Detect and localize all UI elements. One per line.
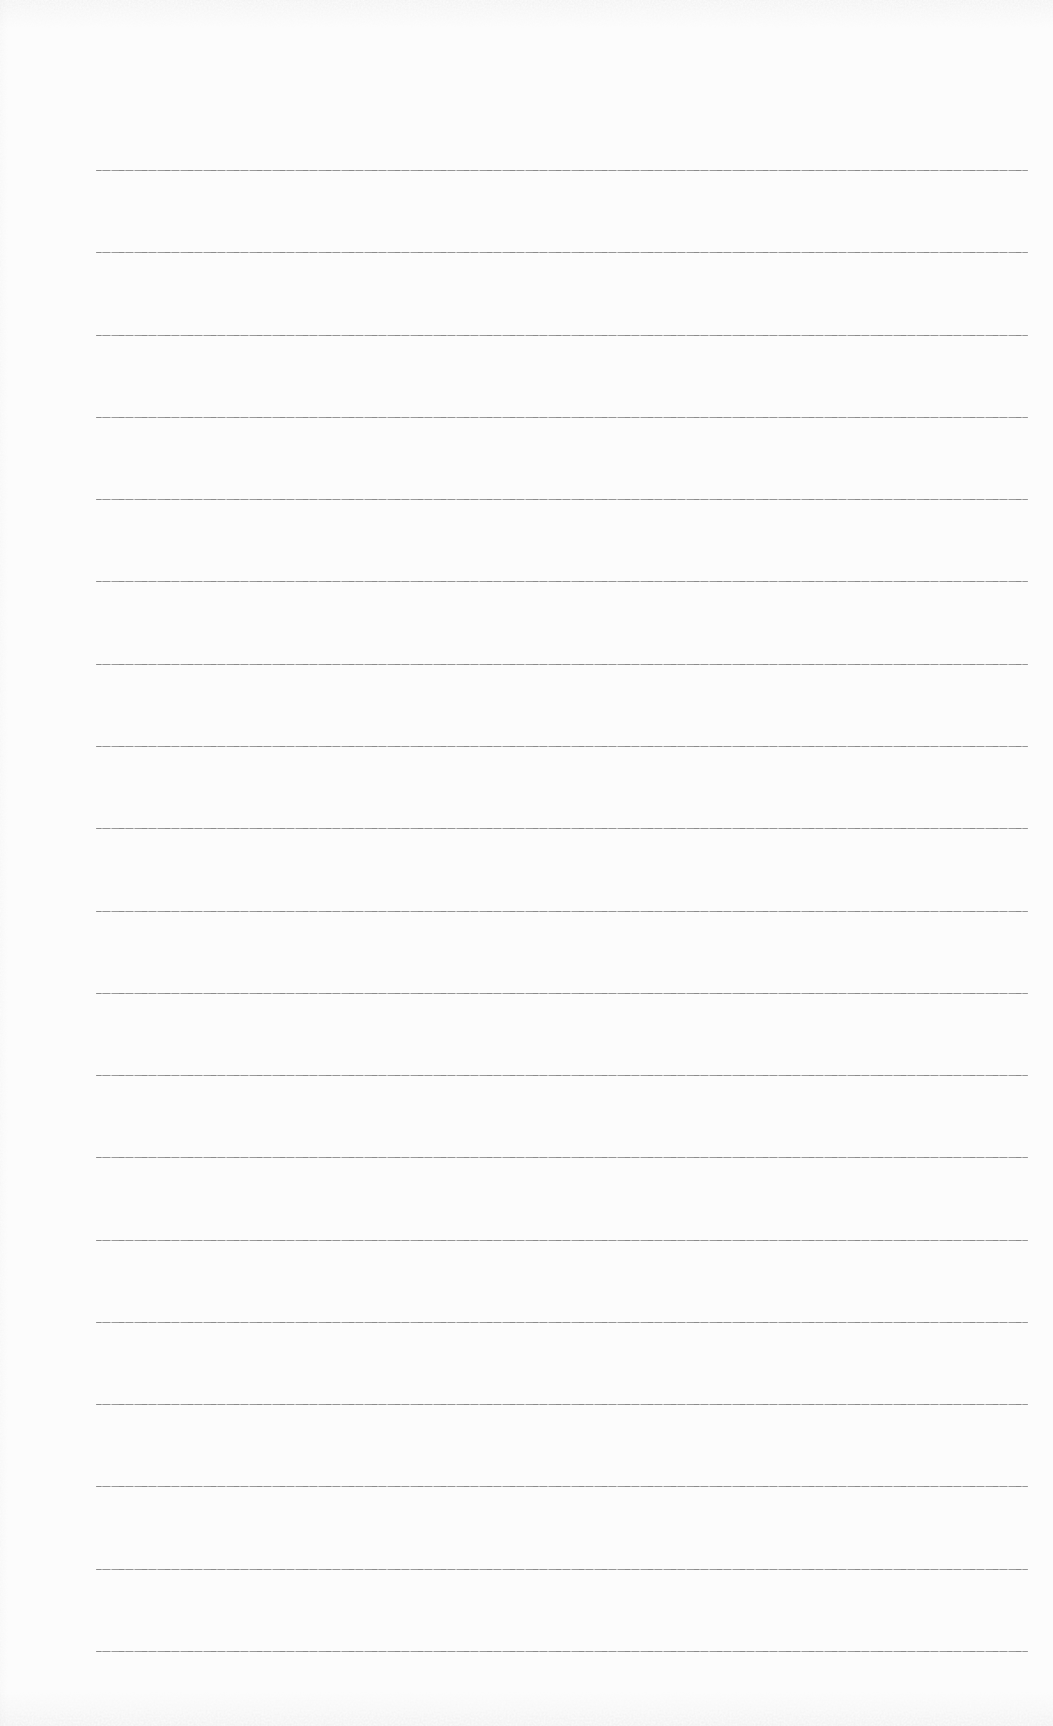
ruled-line — [96, 252, 1028, 253]
ruled-line — [96, 993, 1028, 994]
ruled-line — [96, 1157, 1028, 1158]
ruled-line — [96, 335, 1028, 336]
scanned-page — [0, 0, 1053, 1726]
ruled-line — [96, 170, 1028, 171]
ruled-line — [96, 499, 1028, 500]
ruled-line — [96, 664, 1028, 665]
ruled-line — [96, 1240, 1028, 1241]
ruled-line — [96, 417, 1028, 418]
ruled-line — [96, 581, 1028, 582]
ruled-line — [96, 746, 1028, 747]
ruled-line — [96, 1075, 1028, 1076]
ruled-line — [96, 1569, 1028, 1570]
ruled-line — [96, 1651, 1028, 1652]
ruled-line — [96, 828, 1028, 829]
ruled-line — [96, 1322, 1028, 1323]
ruled-lines-layer — [0, 0, 1053, 1726]
ruled-line — [96, 1486, 1028, 1487]
ruled-line — [96, 911, 1028, 912]
ruled-line — [96, 1404, 1028, 1405]
